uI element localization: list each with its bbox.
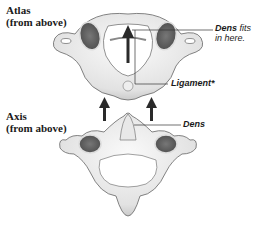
- dens-callout: Dens: [183, 120, 205, 130]
- axis-right-facet: [155, 135, 177, 153]
- dens-fits-bold: Dens: [215, 23, 237, 33]
- upward-arrow-right: [146, 97, 157, 121]
- dens-label: Dens: [183, 119, 205, 129]
- dens-fits-callout: Dens fits in here.: [215, 24, 251, 44]
- atlas-title: Atlas: [6, 4, 67, 16]
- axis-label: Axis (from above): [6, 110, 67, 134]
- axis-left-facet: [79, 135, 101, 153]
- axis-subtitle: (from above): [6, 122, 67, 134]
- axis-title: Axis: [6, 110, 67, 122]
- dens-fits-rest: fits: [237, 23, 251, 33]
- upward-arrow-left: [99, 97, 110, 121]
- atlas-subtitle: (from above): [6, 16, 67, 28]
- atlas-label: Atlas (from above): [6, 4, 67, 28]
- ligament-callout: Ligament*: [171, 79, 215, 89]
- dens-fits-line2: in here.: [215, 34, 251, 44]
- axis-vertebra: [60, 113, 197, 216]
- ligament-label: Ligament*: [171, 78, 215, 88]
